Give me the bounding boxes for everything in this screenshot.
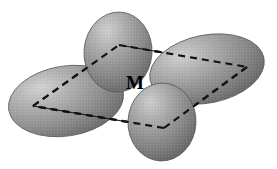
orbital-figure: M [0, 0, 277, 169]
center-atom-label: M [126, 73, 144, 92]
